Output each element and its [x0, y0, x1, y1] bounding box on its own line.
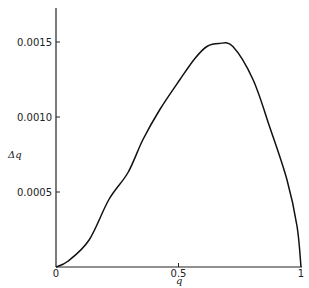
y-tick-label: 0.0010: [17, 112, 52, 123]
y-ticks: 0.00050.00100.0015: [17, 37, 60, 198]
y-tick-label: 0.0005: [17, 187, 52, 198]
axes: 0.00050.00100.0015 00.51 Δq q: [7, 8, 304, 286]
x-tick-label: 1: [298, 268, 304, 279]
y-tick-label: 0.0015: [17, 37, 52, 48]
y-axis-label: Δq: [7, 149, 22, 160]
data-curve: [56, 43, 301, 267]
chart: 0.00050.00100.0015 00.51 Δq q: [0, 0, 309, 288]
x-tick-label: 0: [53, 268, 59, 279]
x-axis-label: q: [176, 275, 182, 286]
